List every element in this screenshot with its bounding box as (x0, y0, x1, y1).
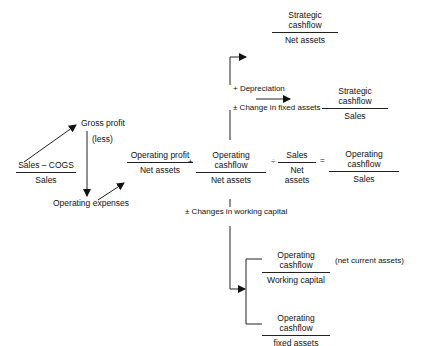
operating-cashflow-net-assets-ratio: Operating cashflow Net assets (196, 150, 266, 185)
denominator: Working capital (262, 273, 330, 285)
denominator: Sales (329, 172, 399, 184)
numerator: Operating profit (127, 150, 193, 163)
gross-profit-label: Gross profit (81, 118, 125, 128)
numerator: Sales – COGS (16, 160, 76, 173)
bracket (246, 259, 262, 324)
strategic-cashflow-sales-ratio: Strategic cashflow Sales (322, 86, 388, 121)
divide-operator: ÷ (271, 157, 275, 167)
less-label: (less) (92, 134, 113, 144)
numerator: Operating cashflow (329, 149, 399, 172)
arrow-to-strategic-net-assets (230, 57, 246, 85)
plus-operator: + (188, 157, 193, 167)
denominator: Net assets (272, 33, 338, 45)
denominator: fixed assets (262, 336, 330, 346)
operating-cashflow-sales-ratio: Operating cashflow Sales (329, 149, 399, 184)
ocf-fixed-assets-ratio: Operating cashflow fixed assets (262, 313, 330, 346)
operating-expenses-label: Operating expenses (53, 198, 129, 208)
numerator: Strategic cashflow (322, 86, 388, 109)
denominator: Net assets (127, 163, 193, 175)
arrow-to-bracket (230, 226, 245, 289)
numerator: Strategic cashflow (272, 10, 338, 33)
numerator: Sales (278, 150, 316, 163)
strategic-cashflow-net-assets-ratio: Strategic cashflow Net assets (272, 10, 338, 45)
net-current-assets-note: (net current assets) (335, 256, 404, 266)
arrow-to-gross-profit (24, 125, 76, 162)
numerator: Operating cashflow (262, 313, 330, 336)
numerator: Operating cashflow (196, 150, 266, 173)
denominator: Sales (16, 173, 76, 185)
equals-operator: = (320, 156, 325, 166)
asset-turnover-ratio: Sales Net assets (278, 150, 316, 185)
ocf-working-capital-ratio: Operating cashflow Working capital (262, 250, 330, 285)
denominator: Net assets (196, 173, 266, 185)
gross-margin-ratio: Sales – COGS Sales (16, 160, 76, 185)
denominator: Sales (322, 109, 388, 121)
operating-profit-ratio: Operating profit Net assets (127, 150, 193, 175)
fixed-assets-change-label: ± Change in fixed assets (233, 103, 321, 113)
working-capital-change-label: ± Changes in working capital (185, 207, 287, 217)
denominator: Net assets (278, 163, 316, 185)
depreciation-label: + Depreciation (233, 84, 285, 94)
numerator: Operating cashflow (262, 250, 330, 273)
